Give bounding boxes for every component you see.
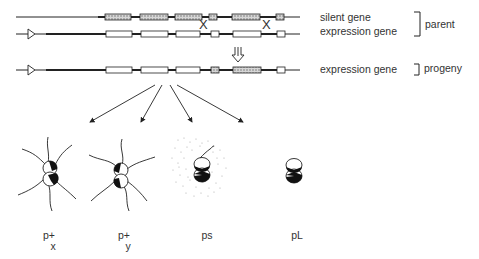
crossover-mark-1: X [199, 19, 208, 31]
phenotype-sub: x [34, 241, 64, 252]
crossover-mark-2: X [262, 19, 271, 31]
diagram-graphics [0, 0, 479, 259]
gene-recombination-diagram: X X silent gene expression gene parent e… [0, 0, 479, 259]
phenotype-arrows [90, 85, 243, 122]
silent-gene-label: silent gene [320, 11, 371, 23]
expression-gene-label: expression gene [320, 25, 397, 37]
phenotype-name: p+ [34, 230, 64, 241]
progeny-expression-gene-label: expression gene [320, 63, 397, 75]
diplococcus-piliated-x [18, 137, 76, 211]
progeny-bracket [414, 64, 419, 75]
silent-gene-row [16, 14, 300, 20]
phenotype-caption-pL: pL [282, 230, 312, 241]
phenotype-name: ps [192, 230, 222, 241]
expression-gene-row [16, 29, 300, 39]
diplococcus-ps [194, 146, 214, 182]
phenotype-caption-px: p+ x [34, 230, 64, 252]
phenotype-sub: y [109, 241, 139, 252]
phenotype-name: p+ [109, 230, 139, 241]
diplococcus-piliated-y [89, 139, 155, 211]
phenotype-name: pL [282, 230, 312, 241]
parent-bracket [414, 12, 420, 36]
recombination-arrow-icon [232, 47, 244, 62]
parent-label: parent [425, 18, 455, 30]
progeny-label: progeny [424, 62, 462, 74]
phenotype-caption-ps: ps [192, 230, 222, 241]
diplococcus-pL [286, 159, 302, 184]
phenotype-caption-py: p+ y [109, 230, 139, 252]
progeny-gene-row [16, 65, 300, 75]
